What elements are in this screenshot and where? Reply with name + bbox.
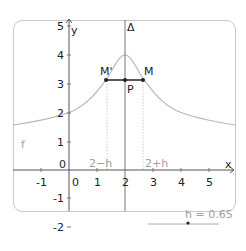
label-2-minus-h: 2−h [89,157,112,170]
x-tick-label: 4 [178,176,185,189]
curve-f [13,55,235,125]
label-p: P [127,83,134,96]
label-m-prime: M' [100,65,113,78]
x-tick-label: -1 [36,176,47,189]
delta-label: Δ [127,21,135,34]
x-tick-label: 3 [150,176,157,189]
label-m: M [144,65,154,78]
x-tick-label: 2 [122,176,129,189]
x-axis-label: x [225,158,232,171]
y-tick-label: 1 [57,136,64,149]
function-plot: -1 0 1 2 3 4 5 5 4 3 2 1 0 -1 -2 y x Δ M… [0,0,246,251]
y-tick-label-origin: 0 [59,158,66,171]
y-tick-label: 4 [57,49,64,62]
slider-h-handle[interactable] [186,221,189,224]
point-m[interactable] [141,78,145,82]
slider-h-value: h = 0.65 [185,208,233,221]
y-tick-label: -2 [53,221,64,234]
x-tick-label: 5 [206,176,213,189]
x-tick-label: 1 [94,176,101,189]
point-m-prime[interactable] [104,78,108,82]
y-tick-label: 2 [57,107,64,120]
point-p[interactable] [123,78,127,82]
y-tick-label: 3 [57,78,64,91]
y-axis-label: y [71,24,78,37]
curve-label-f: f [21,138,26,151]
x-tick-label-origin: 0 [72,176,79,189]
y-tick-label: -1 [53,192,64,205]
label-2-plus-h: 2+h [145,157,168,170]
y-tick-label: 5 [57,20,64,33]
